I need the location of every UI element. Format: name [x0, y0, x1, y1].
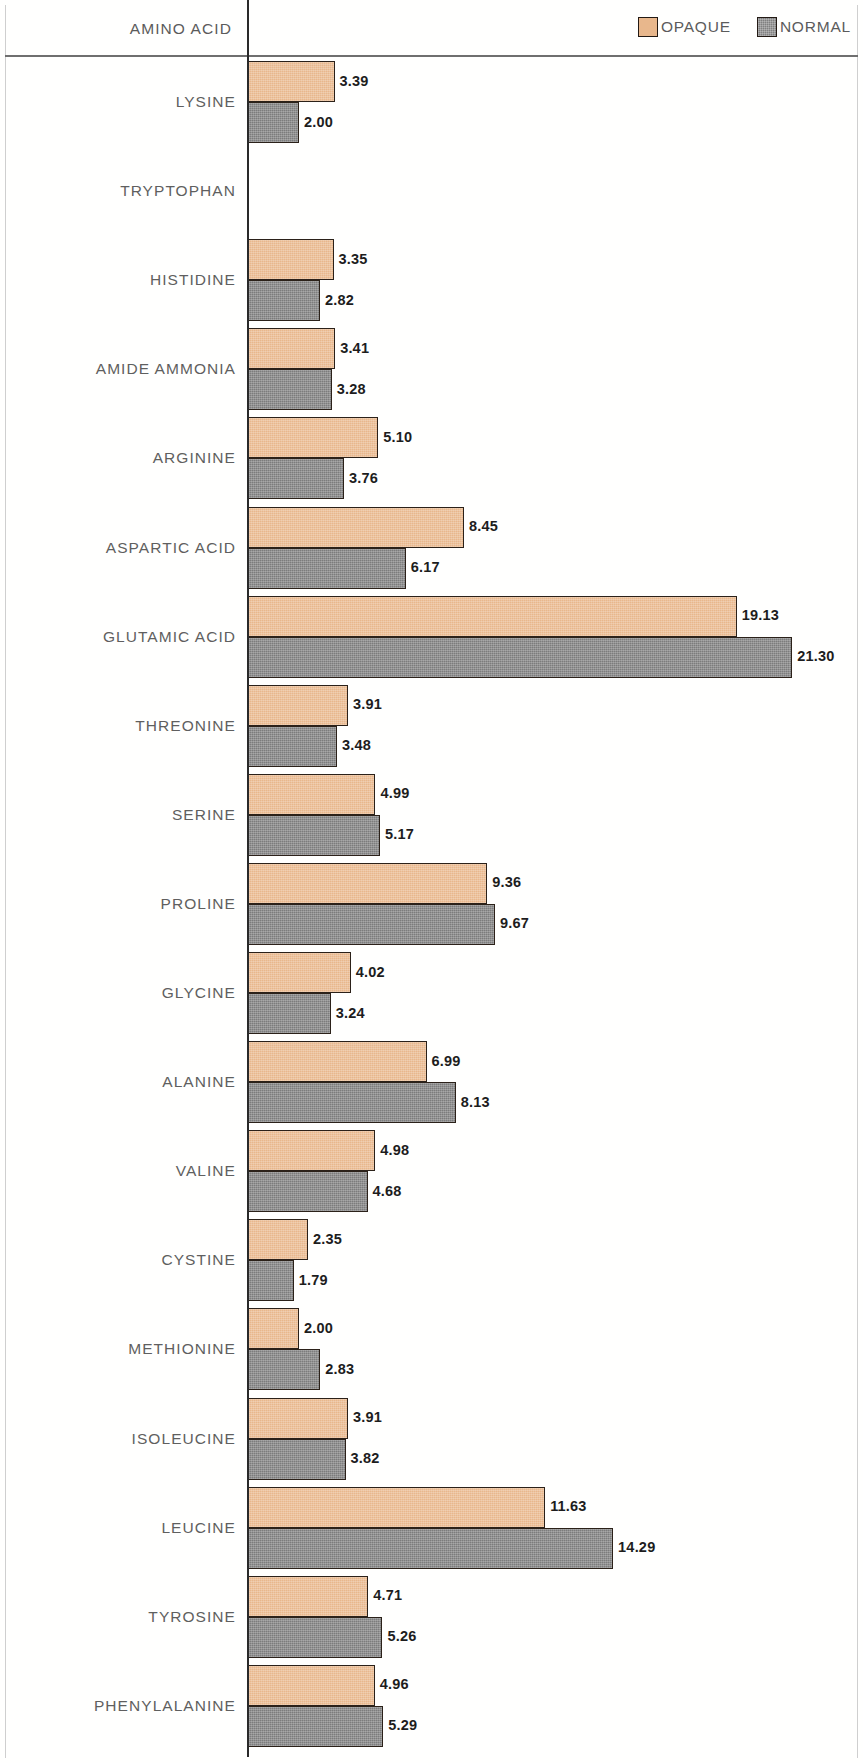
- bar-value-opaque-valine: 4.98: [380, 1142, 409, 1158]
- bar-normal-tyrosine: [248, 1617, 382, 1658]
- bar-value-opaque-tyrosine: 4.71: [373, 1587, 402, 1603]
- chart-row: ISOLEUCINE3.913.82: [0, 1398, 863, 1480]
- bar-value-opaque-amide-ammonia: 3.41: [340, 340, 369, 356]
- legend-item-normal: NORMAL: [757, 17, 851, 37]
- bar-normal-glycine: [248, 993, 331, 1034]
- bar-value-opaque-glycine: 4.02: [356, 964, 385, 980]
- chart-row: TYROSINE4.715.26: [0, 1576, 863, 1658]
- bar-normal-methionine: [248, 1349, 320, 1390]
- bar-normal-phenylalanine: [248, 1706, 383, 1747]
- chart-row: GLUTAMIC ACID19.1321.30: [0, 596, 863, 678]
- bar-normal-histidine: [248, 280, 320, 321]
- bar-value-opaque-arginine: 5.10: [383, 429, 412, 445]
- bar-value-opaque-proline: 9.36: [492, 874, 521, 890]
- bar-value-opaque-glutamic-acid: 19.13: [742, 607, 779, 623]
- bar-normal-serine: [248, 815, 380, 856]
- bar-value-normal-glutamic-acid: 21.30: [797, 648, 834, 664]
- chart-row: PHENYLALANINE4.965.29: [0, 1665, 863, 1747]
- bar-normal-aspartic-acid: [248, 548, 406, 589]
- category-label-glycine: GLYCINE: [0, 984, 236, 1002]
- bar-value-normal-aspartic-acid: 6.17: [411, 559, 440, 575]
- bar-normal-threonine: [248, 726, 337, 767]
- bar-opaque-amide-ammonia: [248, 328, 335, 369]
- bar-opaque-lysine: [248, 61, 335, 102]
- bar-value-opaque-methionine: 2.00: [304, 1320, 333, 1336]
- bar-value-opaque-phenylalanine: 4.96: [380, 1676, 409, 1692]
- bar-normal-glutamic-acid: [248, 637, 792, 678]
- category-label-proline: PROLINE: [0, 895, 236, 913]
- bar-normal-valine: [248, 1171, 368, 1212]
- bar-value-opaque-leucine: 11.63: [550, 1498, 587, 1514]
- bar-opaque-glutamic-acid: [248, 596, 737, 637]
- bar-opaque-valine: [248, 1130, 375, 1171]
- category-label-tyrosine: TYROSINE: [0, 1608, 236, 1626]
- chart-row: LYSINE3.392.00: [0, 61, 863, 143]
- category-label-arginine: ARGININE: [0, 449, 236, 467]
- bar-normal-arginine: [248, 458, 344, 499]
- bar-value-normal-cystine: 1.79: [299, 1272, 328, 1288]
- chart-row: ALANINE6.998.13: [0, 1041, 863, 1123]
- chart-row: PROLINE9.369.67: [0, 863, 863, 945]
- bar-normal-isoleucine: [248, 1439, 346, 1480]
- chart-row: HISTIDINE3.352.82: [0, 239, 863, 321]
- legend-swatch-icon-normal: [757, 17, 777, 37]
- chart-row: SERINE4.995.17: [0, 774, 863, 856]
- bar-normal-leucine: [248, 1528, 613, 1569]
- bar-opaque-alanine: [248, 1041, 427, 1082]
- bar-opaque-phenylalanine: [248, 1665, 375, 1706]
- bar-normal-amide-ammonia: [248, 369, 332, 410]
- bar-normal-proline: [248, 904, 495, 945]
- bar-value-opaque-lysine: 3.39: [340, 73, 369, 89]
- chart-row: LEUCINE11.6314.29: [0, 1487, 863, 1569]
- legend-label-normal: NORMAL: [780, 18, 851, 36]
- bar-value-normal-arginine: 3.76: [349, 470, 378, 486]
- category-label-lysine: LYSINE: [0, 93, 236, 111]
- category-label-valine: VALINE: [0, 1162, 236, 1180]
- bar-opaque-proline: [248, 863, 487, 904]
- category-label-leucine: LEUCINE: [0, 1519, 236, 1537]
- category-label-tryptophan: TRYPTOPHAN: [0, 182, 236, 200]
- bar-normal-lysine: [248, 102, 299, 143]
- bar-opaque-aspartic-acid: [248, 507, 464, 548]
- bar-opaque-cystine: [248, 1219, 308, 1260]
- bar-value-opaque-histidine: 3.35: [339, 251, 368, 267]
- bar-value-normal-methionine: 2.83: [325, 1361, 354, 1377]
- bar-value-normal-glycine: 3.24: [336, 1005, 365, 1021]
- chart-legend: OPAQUE NORMAL: [638, 17, 851, 37]
- chart-row: CYSTINE2.351.79: [0, 1219, 863, 1301]
- bar-value-opaque-threonine: 3.91: [353, 696, 382, 712]
- category-label-aspartic-acid: ASPARTIC ACID: [0, 539, 236, 557]
- category-label-amide-ammonia: AMIDE AMMONIA: [0, 360, 236, 378]
- bar-value-normal-lysine: 2.00: [304, 114, 333, 130]
- bar-value-opaque-aspartic-acid: 8.45: [469, 518, 498, 534]
- bar-value-normal-serine: 5.17: [385, 826, 414, 842]
- bar-value-normal-isoleucine: 3.82: [351, 1450, 380, 1466]
- chart-row: AMIDE AMMONIA3.413.28: [0, 328, 863, 410]
- plot-area: LYSINE3.392.00TRYPTOPHANHISTIDINE3.352.8…: [0, 57, 863, 1757]
- bar-value-normal-leucine: 14.29: [618, 1539, 655, 1555]
- bar-value-normal-alanine: 8.13: [461, 1094, 490, 1110]
- bar-opaque-leucine: [248, 1487, 545, 1528]
- bar-opaque-methionine: [248, 1308, 299, 1349]
- chart-row: GLYCINE4.023.24: [0, 952, 863, 1034]
- bar-value-opaque-serine: 4.99: [380, 785, 409, 801]
- chart-row: THREONINE3.913.48: [0, 685, 863, 767]
- amino-acid-bar-chart: AMINO ACID OPAQUE NORMAL LYSINE3.392.00T…: [0, 0, 863, 1763]
- bar-value-normal-valine: 4.68: [373, 1183, 402, 1199]
- chart-row: ASPARTIC ACID8.456.17: [0, 507, 863, 589]
- legend-label-opaque: OPAQUE: [661, 18, 731, 36]
- bar-value-normal-phenylalanine: 5.29: [388, 1717, 417, 1733]
- bar-value-normal-amide-ammonia: 3.28: [337, 381, 366, 397]
- bar-opaque-histidine: [248, 239, 334, 280]
- chart-row: VALINE4.984.68: [0, 1130, 863, 1212]
- value-axis-baseline: [247, 0, 249, 1757]
- category-label-cystine: CYSTINE: [0, 1251, 236, 1269]
- bar-normal-alanine: [248, 1082, 456, 1123]
- chart-row: TRYPTOPHAN: [0, 150, 863, 232]
- legend-swatch-icon-opaque: [638, 17, 658, 37]
- bar-value-opaque-cystine: 2.35: [313, 1231, 342, 1247]
- category-label-alanine: ALANINE: [0, 1073, 236, 1091]
- bar-value-normal-threonine: 3.48: [342, 737, 371, 753]
- bar-value-opaque-alanine: 6.99: [432, 1053, 461, 1069]
- bar-opaque-glycine: [248, 952, 351, 993]
